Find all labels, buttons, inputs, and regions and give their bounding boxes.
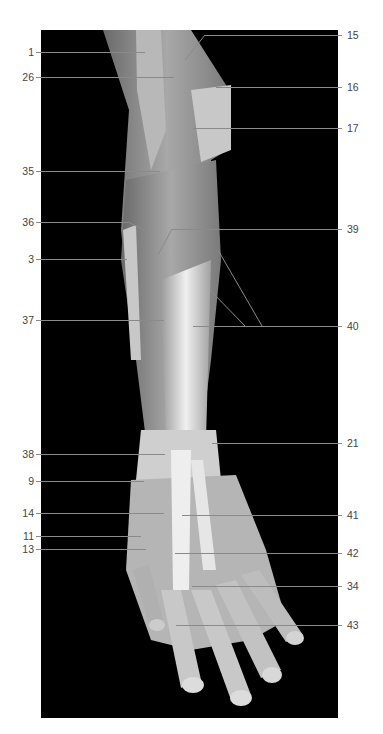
leader-line <box>36 222 128 223</box>
label-14: 14 <box>4 507 34 519</box>
label-36: 36 <box>4 216 34 228</box>
label-37: 37 <box>4 314 34 326</box>
label-16: 16 <box>347 81 359 93</box>
leader-line <box>36 320 164 321</box>
label-13: 13 <box>4 543 34 555</box>
label-41: 41 <box>347 509 359 521</box>
label-35: 35 <box>4 165 34 177</box>
leader-line <box>36 52 145 53</box>
leader-line <box>212 443 342 444</box>
anatomy-photo <box>41 30 338 718</box>
label-40: 40 <box>347 320 359 332</box>
leader-line <box>36 513 164 514</box>
leader-line <box>193 326 342 327</box>
leader-line <box>36 259 127 260</box>
forearm-hand-illustration <box>41 30 338 718</box>
leader-line <box>36 171 160 172</box>
leader-line <box>36 454 165 455</box>
label-1: 1 <box>4 46 34 58</box>
leader-line <box>36 549 146 550</box>
leader-line <box>175 553 342 554</box>
label-15: 15 <box>347 29 359 41</box>
leader-line <box>172 229 342 230</box>
leader-line <box>182 515 342 516</box>
leader-line <box>36 536 141 537</box>
leader-line <box>193 128 342 129</box>
label-34: 34 <box>347 580 359 592</box>
leader-line <box>216 87 342 88</box>
label-9: 9 <box>4 475 34 487</box>
leader-line <box>176 625 342 626</box>
leader-line <box>205 35 342 36</box>
label-43: 43 <box>347 619 359 631</box>
leader-line <box>36 77 174 78</box>
label-21: 21 <box>347 437 359 449</box>
label-38: 38 <box>4 448 34 460</box>
label-26: 26 <box>4 71 34 83</box>
label-42: 42 <box>347 547 359 559</box>
label-3: 3 <box>4 253 34 265</box>
label-11: 11 <box>4 530 34 542</box>
label-39: 39 <box>347 223 359 235</box>
leader-line <box>192 586 342 587</box>
leader-line <box>36 481 144 482</box>
label-17: 17 <box>347 122 359 134</box>
